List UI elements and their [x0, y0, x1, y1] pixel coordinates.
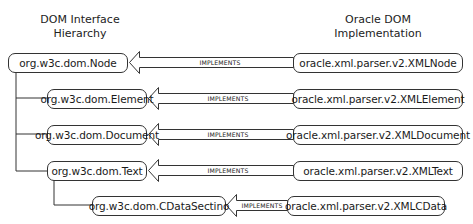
interface-name: org.w3c.dom.Node	[19, 57, 116, 69]
tree-connector-text	[54, 180, 92, 205]
implementation-name: oracle.xml.parser.v2.XMLCData	[285, 200, 447, 212]
implements-label: IMPLEMENTS	[190, 59, 250, 67]
interface-box-node: org.w3c.dom.Node	[8, 53, 128, 73]
interface-box-element: org.w3c.dom.Element	[47, 89, 147, 109]
implementation-name: oracle.xml.parser.v2.XMLText	[303, 165, 453, 177]
implementation-name: oracle.xml.parser.v2.XMLDocument	[286, 129, 470, 141]
interface-name: org.w3c.dom.Document	[35, 129, 159, 141]
implements-label: IMPLEMENTS	[238, 202, 286, 210]
implements-label: IMPLEMENTS	[198, 167, 258, 175]
interface-name: org.w3c.dom.Text	[51, 165, 142, 177]
interface-box-text: org.w3c.dom.Text	[47, 161, 147, 181]
implements-label: IMPLEMENTS	[198, 95, 258, 103]
implementation-box-xmltext: oracle.xml.parser.v2.XMLText	[293, 161, 463, 181]
implementation-box-xmlnode: oracle.xml.parser.v2.XMLNode	[293, 53, 463, 73]
implementation-name: oracle.xml.parser.v2.XMLNode	[299, 57, 456, 69]
implementation-box-xmlcdata: oracle.xml.parser.v2.XMLCData	[287, 196, 445, 216]
implementation-name: oracle.xml.parser.v2.XMLElement	[291, 93, 464, 105]
implements-label: IMPLEMENTS	[198, 131, 258, 139]
implementation-box-xmldocument: oracle.xml.parser.v2.XMLDocument	[293, 125, 463, 145]
interface-box-document: org.w3c.dom.Document	[47, 125, 147, 145]
implementation-box-xmlelement: oracle.xml.parser.v2.XMLElement	[293, 89, 463, 109]
interface-box-cdatasection: org.w3c.dom.CDataSectino	[92, 196, 226, 216]
interface-name: org.w3c.dom.Element	[40, 93, 153, 105]
interface-name: org.w3c.dom.CDataSectino	[89, 200, 230, 212]
diagram-connectors	[0, 0, 473, 224]
